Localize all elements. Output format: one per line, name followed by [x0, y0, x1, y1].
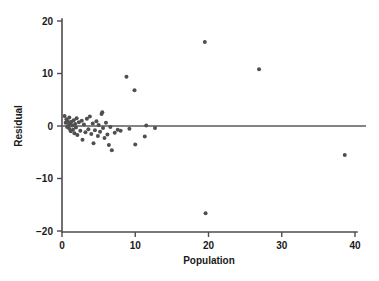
data-point	[343, 153, 347, 157]
data-point	[94, 119, 98, 123]
y-tick-label: 0	[47, 121, 53, 132]
data-point	[100, 110, 104, 114]
data-point	[143, 135, 147, 139]
x-tick-label: 0	[59, 240, 65, 251]
data-point	[81, 138, 85, 142]
data-point	[127, 127, 131, 131]
y-tick-label: −20	[36, 226, 53, 237]
chart-canvas: −20−1001020 010203040 Population Residua…	[0, 0, 379, 281]
x-tick-label: 20	[203, 240, 215, 251]
data-point	[124, 75, 128, 79]
data-point	[78, 129, 82, 133]
data-point	[74, 126, 78, 130]
data-point	[98, 130, 102, 134]
x-axis-title: Population	[183, 255, 235, 266]
data-point	[86, 127, 90, 131]
data-point	[75, 116, 79, 120]
y-tick-label: −10	[36, 173, 53, 184]
data-point	[73, 122, 77, 126]
data-point	[80, 119, 84, 123]
data-point	[83, 130, 87, 134]
data-point	[204, 211, 208, 215]
data-point	[119, 129, 123, 133]
data-point	[91, 141, 95, 145]
x-tick-label: 10	[130, 240, 142, 251]
data-point	[82, 122, 86, 126]
data-point	[96, 134, 100, 138]
data-point	[153, 126, 157, 130]
data-point	[133, 142, 137, 146]
data-point	[91, 121, 95, 125]
y-tick-label: 20	[42, 16, 54, 27]
data-point	[203, 40, 207, 44]
data-point	[113, 131, 117, 135]
data-point	[105, 132, 109, 136]
data-point	[97, 123, 101, 127]
data-point	[89, 132, 93, 136]
data-point	[101, 126, 105, 130]
residual-scatter-plot-figure: −20−1001020 010203040 Population Residua…	[0, 0, 379, 281]
chart-background	[0, 0, 379, 281]
data-point	[107, 143, 111, 147]
data-point	[133, 88, 137, 92]
x-tick-label: 40	[349, 240, 361, 251]
data-point	[93, 128, 97, 132]
data-point	[144, 123, 148, 127]
data-point	[257, 67, 261, 71]
data-point	[75, 133, 79, 137]
data-point	[102, 136, 106, 140]
y-tick-label: 10	[42, 68, 54, 79]
data-point	[88, 115, 92, 119]
data-point	[104, 121, 108, 125]
y-axis-title: Residual	[13, 105, 24, 147]
data-point	[110, 148, 114, 152]
data-point	[67, 116, 71, 120]
x-tick-label: 30	[276, 240, 288, 251]
data-point	[108, 125, 112, 129]
